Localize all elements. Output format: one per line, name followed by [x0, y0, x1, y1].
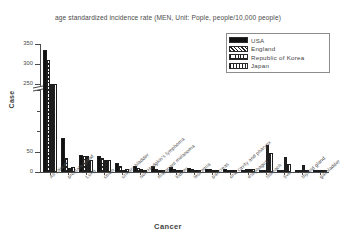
legend-item-label: Republic of Korea: [251, 54, 304, 61]
x-axis-label: Cancer: [0, 222, 336, 231]
bar-group: [77, 44, 95, 172]
y-axis-tick-label: 50: [11, 149, 33, 155]
legend-swatch-icon: [229, 54, 248, 60]
legend-swatch-icon: [229, 63, 248, 69]
legend-item[interactable]: USA: [229, 36, 327, 45]
y-axis-tick-label: 350: [11, 41, 33, 47]
bar-group: [59, 44, 77, 172]
bar-group: [41, 44, 59, 172]
y-axis-tick: [35, 64, 40, 65]
legend-item-label: USA: [251, 37, 264, 44]
legend-item[interactable]: England: [229, 45, 327, 54]
y-axis-tick: [35, 84, 40, 85]
legend-item[interactable]: Japan: [229, 62, 327, 71]
chart-title: age standardized incidence rate (MEN, Un…: [0, 14, 336, 21]
y-axis-tick: [35, 152, 40, 153]
y-axis-tick: [37, 131, 40, 132]
bar-group: [95, 44, 113, 172]
y-axis-tick: [37, 111, 40, 112]
y-axis-tick-label: 300: [11, 61, 33, 67]
y-axis-tick-label: 250: [11, 81, 33, 87]
y-axis-tick-label: 0: [11, 169, 33, 175]
bar-group: [203, 44, 221, 172]
legend-swatch-icon: [229, 46, 248, 52]
legend-item-label: England: [251, 45, 275, 52]
y-axis-tick: [35, 172, 40, 173]
legend-swatch-icon: [229, 37, 248, 43]
y-axis-tick: [35, 44, 40, 45]
bar[interactable]: [53, 84, 56, 172]
legend-item[interactable]: Republic of Korea: [229, 53, 327, 62]
legend: USAEnglandRepublic of KoreaJapan: [226, 33, 330, 73]
legend-item-label: Japan: [251, 62, 269, 69]
bar-group: [113, 44, 131, 172]
